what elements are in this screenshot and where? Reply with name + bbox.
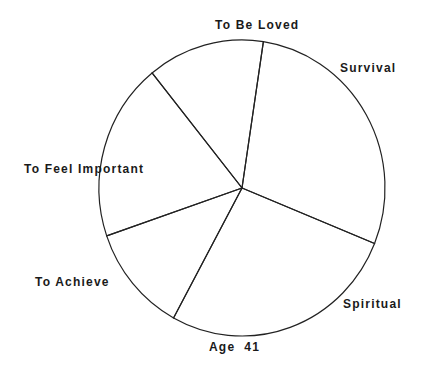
chart-title: Age 41 [209, 340, 260, 354]
pie-chart [0, 0, 430, 375]
label-survival: Survival [340, 61, 396, 75]
pie-slice-to-be-loved [152, 40, 263, 188]
pie-slices [99, 40, 385, 336]
label-to-be-loved: To Be Loved [215, 18, 299, 32]
label-to-achieve: To Achieve [35, 275, 110, 289]
pie-slice-spiritual [174, 188, 375, 336]
label-to-feel-important: To Feel Important [24, 162, 144, 176]
label-spiritual: Spiritual [343, 297, 402, 311]
pie-slice-to-achieve [107, 188, 242, 318]
